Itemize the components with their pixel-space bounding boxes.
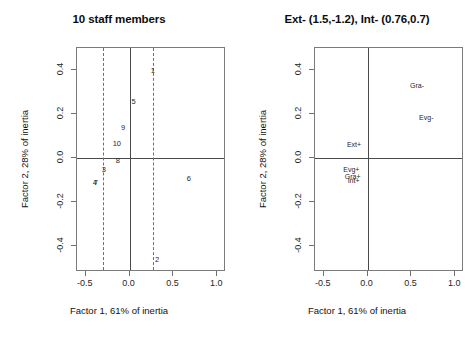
vertical-axis-line bbox=[130, 48, 131, 270]
y-tick-left-0 bbox=[71, 245, 76, 246]
data-point-label-2: 2 bbox=[155, 256, 159, 264]
dashed-reference-line-2 bbox=[153, 48, 154, 270]
data-point-label-10: 10 bbox=[113, 140, 121, 148]
data-point-label-5: 5 bbox=[131, 98, 135, 106]
data-point-label-Intplus: Int+ bbox=[348, 176, 360, 183]
data-point-label-6: 6 bbox=[187, 175, 191, 183]
y-tick-label-left-0: -0.4 bbox=[55, 237, 65, 253]
y-tick-label-right-0: -0.4 bbox=[293, 237, 303, 253]
panel-attribute-categories: Ext- (1.5,-1.2), Int- (0.76,0.7) Gra-Evg… bbox=[238, 0, 476, 337]
x-tick-right-2 bbox=[410, 271, 411, 276]
x-tick-left-3 bbox=[216, 271, 217, 276]
data-point-label-7: 7 bbox=[94, 179, 98, 187]
x-tick-right-1 bbox=[367, 271, 368, 276]
y-tick-left-1 bbox=[71, 201, 76, 202]
horizontal-axis-line bbox=[77, 158, 224, 159]
y-tick-label-left-3: 0.2 bbox=[55, 107, 65, 120]
data-point-label-1: 1 bbox=[151, 67, 155, 75]
x-tick-right-0 bbox=[323, 271, 324, 276]
y-tick-label-left-1: -0.2 bbox=[55, 193, 65, 209]
y-tick-label-right-4: 0.4 bbox=[293, 63, 303, 76]
x-tick-label-left-3: 1.0 bbox=[210, 278, 223, 288]
x-axis-title-left: Factor 1, 61% of inertia bbox=[0, 305, 238, 316]
x-tick-label-right-1: 0.0 bbox=[360, 278, 373, 288]
x-tick-left-1 bbox=[129, 271, 130, 276]
x-tick-label-left-2: 0.5 bbox=[166, 278, 179, 288]
x-tick-label-left-0: -0.5 bbox=[77, 278, 93, 288]
y-tick-right-4 bbox=[309, 69, 314, 70]
y-tick-left-2 bbox=[71, 157, 76, 158]
data-point-label-9: 9 bbox=[121, 124, 125, 132]
vertical-axis-line bbox=[368, 48, 369, 270]
y-tick-label-left-2: 0.0 bbox=[55, 151, 65, 164]
y-tick-label-left-4: 0.4 bbox=[55, 63, 65, 76]
figure-container: 10 staff members 15910834762 -0.50.00.51… bbox=[0, 0, 476, 337]
plot-inner-right: Gra-Evg-Ext+Evg+Gra+Int+ bbox=[315, 48, 462, 270]
data-point-label-Extplus: Ext+ bbox=[347, 140, 361, 147]
y-tick-right-2 bbox=[309, 157, 314, 158]
y-tick-label-right-2: 0.0 bbox=[293, 151, 303, 164]
x-tick-label-right-2: 0.5 bbox=[404, 278, 417, 288]
y-tick-right-1 bbox=[309, 201, 314, 202]
panel-title-left: 10 staff members bbox=[0, 13, 238, 25]
y-tick-right-0 bbox=[309, 245, 314, 246]
x-tick-label-left-1: 0.0 bbox=[122, 278, 135, 288]
y-axis-title-right: Factor 2, 28% of inertia bbox=[257, 110, 268, 208]
y-tick-left-4 bbox=[71, 69, 76, 70]
x-tick-left-0 bbox=[85, 271, 86, 276]
panel-title-right: Ext- (1.5,-1.2), Int- (0.76,0.7) bbox=[238, 13, 476, 25]
x-tick-left-2 bbox=[172, 271, 173, 276]
x-tick-label-right-0: -0.5 bbox=[315, 278, 331, 288]
y-tick-label-right-3: 0.2 bbox=[293, 107, 303, 120]
horizontal-axis-line bbox=[315, 158, 462, 159]
plot-inner-left: 15910834762 bbox=[77, 48, 224, 270]
x-axis-title-right: Factor 1, 61% of inertia bbox=[238, 305, 476, 316]
data-point-label-Graminus: Gra- bbox=[410, 82, 424, 89]
plot-area-left: 15910834762 bbox=[76, 47, 225, 271]
data-point-label-8: 8 bbox=[116, 157, 120, 165]
y-tick-label-right-1: -0.2 bbox=[293, 193, 303, 209]
x-tick-right-3 bbox=[454, 271, 455, 276]
data-point-label-3: 3 bbox=[102, 166, 106, 174]
panel-staff-members: 10 staff members 15910834762 -0.50.00.51… bbox=[0, 0, 238, 337]
plot-area-right: Gra-Evg-Ext+Evg+Gra+Int+ bbox=[314, 47, 463, 271]
y-tick-right-3 bbox=[309, 113, 314, 114]
data-point-label-Evgminus: Evg- bbox=[419, 114, 433, 121]
x-tick-label-right-3: 1.0 bbox=[448, 278, 461, 288]
y-axis-title-left: Factor 2, 28% of inertia bbox=[19, 110, 30, 208]
y-tick-left-3 bbox=[71, 113, 76, 114]
data-point-label-Evgplus: Evg+ bbox=[343, 165, 359, 172]
dashed-reference-line-1 bbox=[103, 48, 104, 270]
